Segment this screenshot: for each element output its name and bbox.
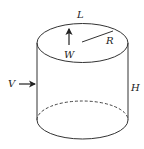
bottom-ellipse-back xyxy=(37,101,128,120)
label-w: W xyxy=(64,49,75,60)
cylinder-svg: L R W V H xyxy=(0,0,144,149)
label-v: V xyxy=(8,78,17,89)
top-ellipse xyxy=(37,24,128,63)
label-r: R xyxy=(105,35,114,46)
bottom-ellipse-front xyxy=(37,120,128,139)
label-l: L xyxy=(76,9,84,20)
cylinder-diagram: L R W V H xyxy=(0,0,144,149)
label-h: H xyxy=(130,82,140,93)
